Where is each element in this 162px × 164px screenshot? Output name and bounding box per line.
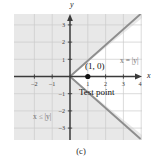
inequality-region-label: x ≤ |y| bbox=[33, 113, 51, 121]
figure-caption: (c) bbox=[0, 147, 162, 156]
y-tick-label: 1 bbox=[62, 56, 65, 63]
x-tick-label: –1 bbox=[48, 80, 55, 87]
y-tick-label: –1 bbox=[58, 90, 65, 97]
y-axis-label: y bbox=[70, 1, 74, 9]
x-tick-label: 4 bbox=[138, 80, 141, 87]
plot-svg: –2 –1 1 2 3 4 3 2 1 –1 –2 –3 bbox=[14, 14, 142, 140]
y-tick-label: –2 bbox=[58, 107, 65, 114]
x-tick-label: –2 bbox=[30, 80, 37, 87]
x-tick-label: 1 bbox=[86, 80, 89, 87]
x-tick-label: 2 bbox=[104, 80, 107, 87]
coordinate-plane: –2 –1 1 2 3 4 3 2 1 –1 –2 –3 x = |y| x ≤… bbox=[14, 14, 142, 140]
y-tick-label: 2 bbox=[62, 38, 65, 45]
figure-container: –2 –1 1 2 3 4 3 2 1 –1 –2 –3 x = |y| x ≤… bbox=[0, 0, 162, 164]
x-axis-label: x bbox=[147, 72, 151, 80]
y-tick-label: 3 bbox=[62, 21, 65, 28]
curve-equation-label: x = |y| bbox=[120, 57, 138, 65]
y-tick-label: –3 bbox=[58, 124, 65, 131]
test-point-caption: Test point bbox=[79, 88, 115, 97]
test-point-coordinates-label: (1, 0) bbox=[85, 62, 105, 71]
test-point-marker bbox=[85, 74, 90, 79]
x-tick-label: 3 bbox=[122, 80, 125, 87]
